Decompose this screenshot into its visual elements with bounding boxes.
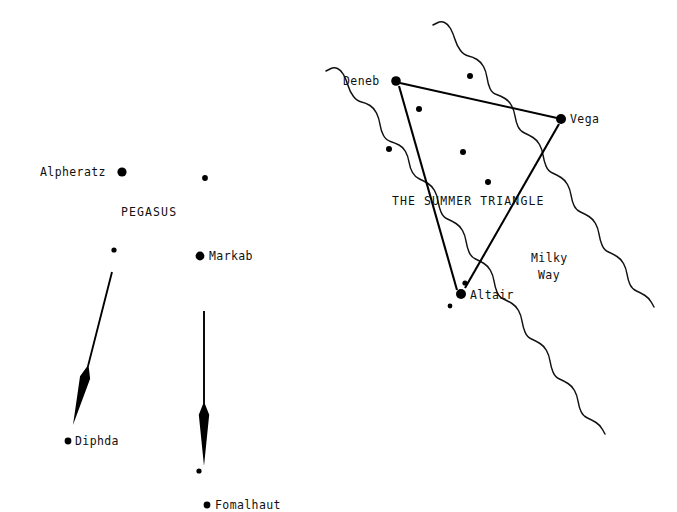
- field-star-8: [485, 179, 491, 185]
- star-dot-deneb[interactable]: [391, 76, 401, 86]
- field-star-4: [467, 73, 473, 79]
- star-label-diphda: Diphda: [75, 434, 119, 448]
- field-star-2: [111, 247, 116, 252]
- field-star-9: [462, 280, 467, 285]
- star-label-altair: Altair: [470, 288, 514, 302]
- field-star-7: [460, 149, 466, 155]
- star-label-vega: Vega: [570, 112, 599, 126]
- field-star-5: [416, 106, 422, 112]
- field-star-10: [448, 304, 453, 309]
- star-dot-altair[interactable]: [456, 289, 466, 299]
- field-star-3: [196, 468, 201, 473]
- field-star-1: [202, 175, 208, 181]
- star-label-fomalhaut: Fomalhaut: [215, 498, 281, 512]
- sky-map: AlpheratzMarkabDiphdaFomalhautDenebVegaA…: [0, 0, 677, 512]
- star-dot-vega[interactable]: [556, 114, 566, 124]
- star-label-deneb: Deneb: [343, 74, 380, 88]
- field-star-6: [386, 146, 392, 152]
- star-label-alpheratz: Alpheratz: [40, 165, 106, 179]
- star-dot-diphda[interactable]: [65, 438, 72, 445]
- star-label-markab: Markab: [209, 249, 253, 263]
- annotation-summer-triangle: THE SUMMER TRIANGLE: [392, 194, 544, 208]
- star-dot-alpheratz[interactable]: [117, 167, 126, 176]
- star-dot-markab[interactable]: [196, 252, 205, 261]
- annotation-milky-way-1: Milky: [531, 251, 568, 265]
- star-dot-fomalhaut[interactable]: [204, 502, 211, 509]
- star-chart-canvas: AlpheratzMarkabDiphdaFomalhautDenebVegaA…: [0, 0, 677, 512]
- annotation-milky-way-2: Way: [538, 268, 560, 282]
- annotation-pegasus: PEGASUS: [121, 205, 177, 219]
